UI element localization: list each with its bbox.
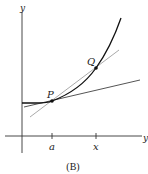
tick-x-label: x — [93, 141, 99, 152]
function-curve — [22, 18, 121, 103]
secant-line — [30, 50, 119, 117]
point-p-label: P — [46, 89, 54, 100]
x-axis-label: y — [142, 133, 148, 143]
figure-caption: (B) — [66, 161, 79, 173]
tick-a-label: a — [49, 141, 55, 152]
point-q-label: Q — [87, 56, 95, 67]
y-axis-label: y — [19, 3, 26, 13]
tangent-secant-diagram: y y P Q a x (B) — [0, 0, 148, 174]
